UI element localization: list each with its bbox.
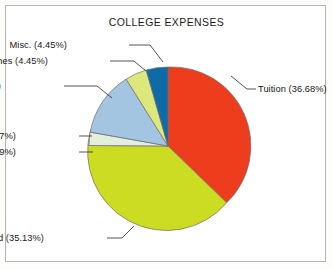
leader-line-clothes [110,61,146,71]
leader-line-car [64,86,112,98]
leader-line-tuition-el [231,76,247,89]
slice-label-tuition: Tuition (36.68%) [258,84,327,94]
pie-chart-figure: COLLEGE EXPENSES [0,0,333,269]
pie-slices [88,67,251,231]
leader-line-misc [129,45,163,62]
slice-label-books: Books (3.29%) [0,147,16,157]
leader-line-room-board [107,226,134,238]
slice-label-clothes: Clothes (4.45%) [0,56,48,66]
slice-label-car: Car (13.34%) [0,81,1,91]
slice-label-room-board: Room/board (35.13%) [0,233,44,243]
slice-label-misc: Misc. (4.45%) [10,40,67,50]
slice-label-phone: Phone (2.67%) [0,131,16,141]
